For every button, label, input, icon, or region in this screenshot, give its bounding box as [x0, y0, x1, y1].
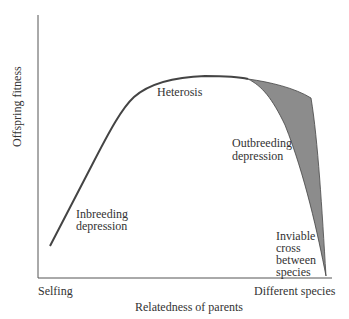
- outbreeding-label-line1: Outbreeding: [232, 136, 292, 150]
- x-tick-selfing: Selfing: [38, 284, 73, 298]
- outbreeding-label-line2: depression: [232, 149, 283, 163]
- inbreeding-label-line2: depression: [76, 219, 127, 233]
- heterosis-label: Heterosis: [157, 85, 202, 99]
- y-axis-label: Offspring fitness: [10, 66, 25, 147]
- x-axis-label: Relatedness of parents: [135, 300, 243, 314]
- inviable-label-line4: species: [276, 265, 311, 279]
- x-tick-different-species: Different species: [254, 284, 335, 298]
